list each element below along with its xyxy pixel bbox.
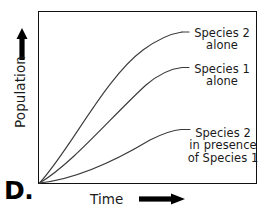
y-axis-title: Population: [12, 44, 28, 140]
y-axis-group: Population: [0, 24, 38, 184]
x-axis-title: Time: [90, 191, 123, 207]
curve-label-line: of Species 1: [185, 152, 261, 164]
curve-label-line: alone: [186, 75, 258, 87]
curve-label-species1-alone: Species 1 alone: [186, 63, 258, 88]
panel-letter: D.: [4, 178, 33, 203]
curve-label-line: alone: [186, 39, 258, 51]
curve-label-species2-with-species1: Species 2 in presence of Species 1: [185, 127, 261, 164]
curve-label-species2-alone: Species 2 alone: [186, 27, 258, 52]
curve-label-line: in presence: [185, 139, 261, 151]
arrow-right-icon: [139, 192, 185, 206]
x-axis-group: Time: [90, 186, 220, 212]
figure-panel: Population Time D. Species 2 alone Speci…: [0, 0, 269, 213]
